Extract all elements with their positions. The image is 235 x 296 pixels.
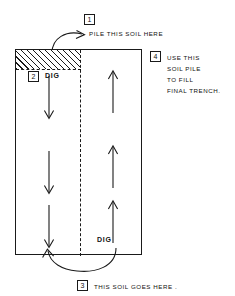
step-1-caption: PILE THIS SOIL HERE [89, 29, 163, 39]
step-4-line-1: USE THIS [167, 53, 200, 63]
left-column-dig-label: DIG [45, 72, 60, 79]
down-arrow-2 [42, 151, 56, 195]
step-badge-2: 2 [28, 71, 39, 82]
trench-center-dashed-divider [80, 50, 81, 256]
step-badge-4: 4 [150, 51, 161, 62]
up-arrow-2 [106, 145, 120, 189]
right-column-dig-label: DIG [97, 236, 112, 243]
step-4-line-2: SOIL PILE [167, 64, 201, 74]
down-arrow-1 [42, 76, 56, 120]
step-badge-1: 1 [84, 14, 95, 25]
down-arrow-3 [42, 205, 56, 249]
soil-pile-hatched-area [16, 50, 80, 69]
soil-return-curved-arrow [37, 248, 123, 276]
up-arrow-1 [106, 70, 120, 114]
step-3-caption: THIS SOIL GOES HERE . [94, 282, 177, 292]
step-4-line-4: FINAL TRENCH. [167, 86, 221, 96]
diagram-canvas: 1 PILE THIS SOIL HERE 4 USE THIS SOIL PI… [0, 0, 235, 296]
step-4-line-3: TO FILL [167, 75, 193, 85]
step-badge-3: 3 [77, 280, 88, 291]
hatch-bottom-dashed-edge [16, 69, 81, 70]
